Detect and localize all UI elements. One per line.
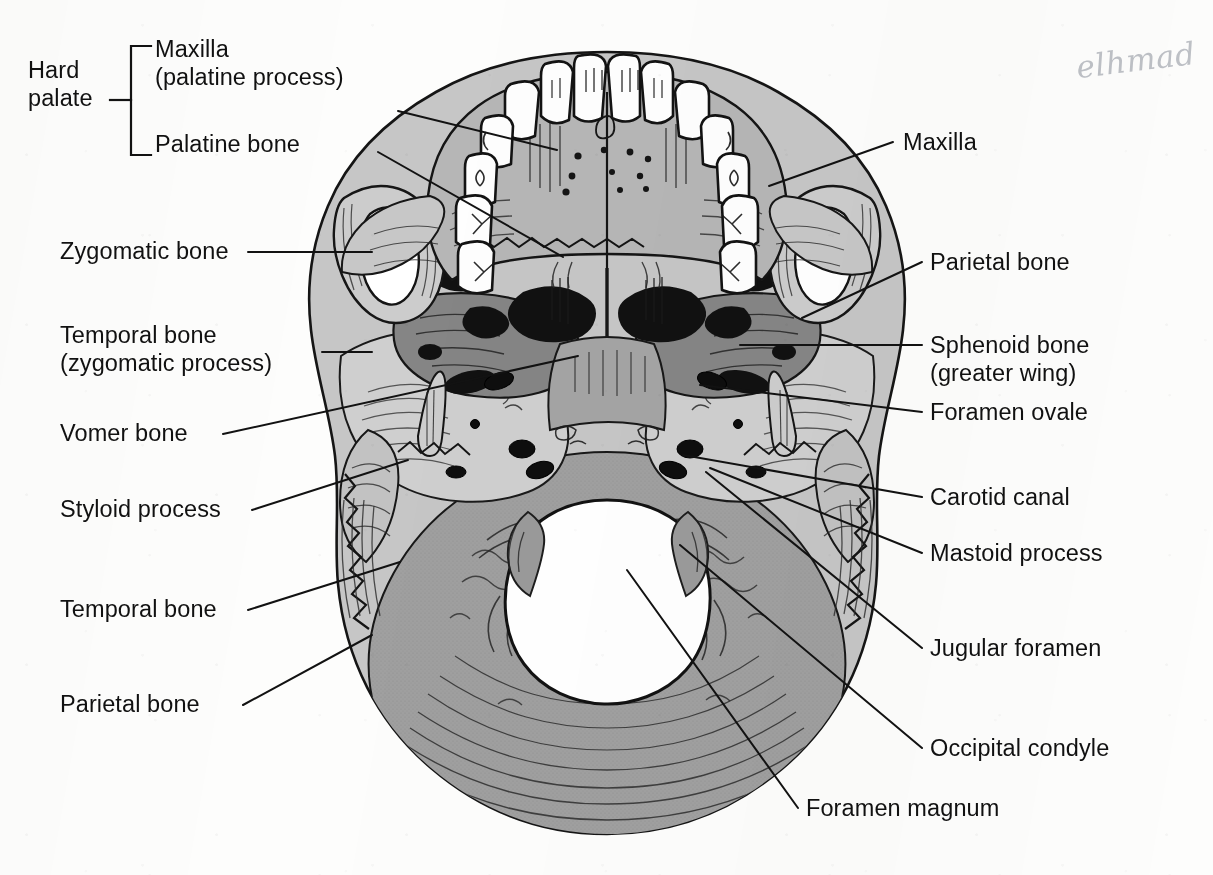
label-palatine-bone: Palatine bone [155,131,300,159]
hard-palate-line1: Hard [28,57,79,83]
tooth-incisor-lateral-left [541,61,573,123]
hard-palate-bracket [110,46,151,155]
label-sphenoid-bone-greater-wing: Sphenoid bone (greater wing) [930,332,1089,387]
carotid-canal-hole-left [509,440,535,458]
tooth-incisor-central-left [574,54,606,121]
hard-palate-line2: palate [28,85,93,111]
basilar-occipital [548,337,665,430]
label-foramen-ovale: Foramen ovale [930,399,1088,427]
label-mastoid-process: Mastoid process [930,540,1103,568]
label-vomer-bone: Vomer bone [60,420,188,448]
leader-parietal-bone-left [243,635,372,705]
label-maxilla: Maxilla [903,129,977,157]
label-zygomatic-bone: Zygomatic bone [60,238,229,266]
label-temporal-bone-zygomatic-process: Temporal bone (zygomatic process) [60,322,272,377]
label-hard-palate: Hard palate [28,57,93,112]
label-carotid-canal: Carotid canal [930,484,1070,512]
label-parietal-bone-right: Parietal bone [930,249,1070,277]
tooth-incisor-central-right [608,54,640,121]
label-occipital-condyle: Occipital condyle [930,735,1109,763]
label-temporal-bone: Temporal bone [60,596,217,624]
label-foramen-magnum: Foramen magnum [806,795,999,823]
skull-diagram-page: Maxilla (palatine process) Palatine bone… [0,0,1213,875]
label-parietal-bone-left: Parietal bone [60,691,200,719]
tooth-incisor-lateral-right [641,61,673,123]
label-styloid-process: Styloid process [60,496,221,524]
label-jugular-foramen: Jugular foramen [930,635,1101,663]
label-maxilla-palatine-process: Maxilla (palatine process) [155,36,344,91]
